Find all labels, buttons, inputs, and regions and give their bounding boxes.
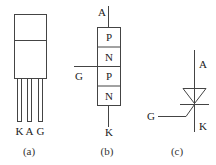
layer-n1: N [105, 51, 113, 63]
symbol-gate-lead [158, 105, 195, 117]
pin-label-a: A [26, 125, 34, 137]
pnpn-structure: A P N P N G K (b) [74, 6, 121, 158]
layer-p2: P [106, 70, 112, 82]
symbol-cathode-label: K [199, 120, 207, 132]
terminal-g-label: G [75, 70, 83, 82]
caption-b: (b) [101, 145, 114, 158]
caption-a: (a) [23, 145, 36, 158]
terminal-a-label: A [98, 6, 106, 18]
thyristor-diagram: K A G (a) A P N P N G K (b) A K G (c) [0, 0, 216, 165]
layer-n2: N [105, 90, 113, 102]
caption-c: (c) [171, 145, 184, 158]
terminal-k-label: K [105, 126, 113, 138]
scr-symbol: A K G (c) [147, 50, 209, 158]
symbol-gate-label: G [147, 110, 155, 122]
pin-label-g: G [37, 125, 45, 137]
pin-k [18, 79, 22, 122]
pin-g [39, 79, 43, 122]
package-body [15, 15, 47, 79]
layer-p1: P [106, 31, 112, 43]
symbol-anode-label: A [199, 58, 207, 70]
pin-label-k: K [16, 125, 24, 137]
pin-a [28, 79, 32, 122]
package-view: K A G (a) [15, 15, 47, 159]
